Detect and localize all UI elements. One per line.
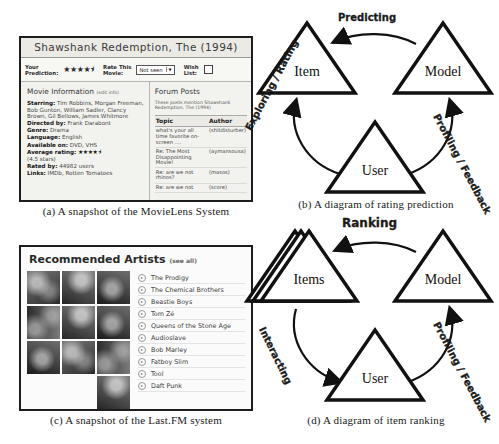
lastfm-body: ▸The Prodigy▸The Chemical Brothers▸Beast… xyxy=(21,271,251,409)
list-item[interactable]: ▸Daft Punk xyxy=(138,380,245,392)
recommended-artists-heading: Recommended Artists (see all) xyxy=(21,247,251,271)
play-icon[interactable]: ▸ xyxy=(138,274,146,282)
artist-name: Fatboy Slim xyxy=(151,358,188,366)
artist-name: The Prodigy xyxy=(151,274,189,282)
table-header-row: Topic Author xyxy=(155,115,247,126)
forum-topic: what's your all time favorite on-screen … xyxy=(155,126,208,147)
node-user: User xyxy=(324,119,426,195)
list-item[interactable]: ▸Beastie Boys xyxy=(138,296,245,308)
links-row: Links: IMDb, Rotten Tomatoes xyxy=(27,170,144,177)
artist-thumbnail[interactable] xyxy=(97,376,130,409)
list-item[interactable]: ▸The Prodigy xyxy=(138,272,245,284)
movielens-body: Movie Information (edit info) Starring: … xyxy=(21,82,251,200)
prediction-stars[interactable]: ★★★★⯨ xyxy=(63,63,94,77)
forum-author: (score) xyxy=(208,183,247,193)
rating-toolbar: Your Prediction: ★★★★⯨ Rate This Movie: … xyxy=(21,58,251,82)
movie-information-section: Movie Information (edit info) Starring: … xyxy=(21,82,150,200)
edge-label-predicting: Predicting xyxy=(338,12,396,23)
caption-c: (c) A snapshot of the Last.FM system xyxy=(19,414,253,426)
play-icon[interactable]: ▸ xyxy=(138,298,146,306)
rating-prediction-diagram: Item Model User Predicting Exploring / R… xyxy=(256,14,496,200)
artist-thumbnail-grid xyxy=(27,271,130,409)
chevron-down-icon: ▼ xyxy=(166,67,172,72)
language-row: Language: English xyxy=(27,134,144,141)
table-row[interactable]: Re: The Most Disappointing Movie!(aymans… xyxy=(155,147,247,168)
artist-thumbnail[interactable] xyxy=(62,306,95,339)
starring-row: Starring: Tim Robbins, Morgan Freeman, B… xyxy=(27,100,144,120)
rate-movie-select[interactable]: Not seen ▼ xyxy=(136,65,174,75)
list-item[interactable]: ▸The Chemical Brothers xyxy=(138,284,245,296)
forum-author: (aymansousa) xyxy=(208,147,247,168)
forum-author: (shitdisturber) xyxy=(208,126,247,147)
edge-label-ranking: Ranking xyxy=(342,216,397,230)
list-item[interactable]: ▸Fatboy Slim xyxy=(138,356,245,368)
average-rating-row: Average rating: ★★★★⯨ xyxy=(27,149,144,156)
table-row[interactable]: Re: are we not(score) xyxy=(155,183,247,193)
edit-info-link[interactable]: (edit info) xyxy=(96,90,118,95)
node-items-label: Items xyxy=(258,272,360,288)
artist-thumbnail[interactable] xyxy=(97,306,130,339)
table-row[interactable]: what's your all time favorite on-screen … xyxy=(155,126,247,147)
node-model-label: Model xyxy=(392,272,494,288)
average-rating-sub: (4.5 stars) xyxy=(27,156,144,163)
artist-thumbnail-empty xyxy=(62,376,95,409)
edge-label-interacting: Interacting xyxy=(257,325,294,386)
forum-posts-table: Topic Author what's your all time favori… xyxy=(155,115,247,193)
lastfm-panel: Recommended Artists (see all) ▸The Prodi… xyxy=(19,245,253,411)
rated-by-row: Rated by: 44982 users xyxy=(27,163,144,170)
your-prediction-label: Your Prediction: xyxy=(25,64,58,76)
list-item[interactable]: ▸Tool xyxy=(138,368,245,380)
caption-a: (a) A snapshot of the MovieLens System xyxy=(19,205,253,217)
node-model: Model xyxy=(392,228,494,304)
play-icon[interactable]: ▸ xyxy=(138,382,146,390)
column-header-topic: Topic xyxy=(155,115,208,126)
node-user-label: User xyxy=(324,371,426,387)
rate-this-movie-label: Rate This Movie: xyxy=(103,64,131,76)
caption-b: (b) A diagram of rating prediction xyxy=(256,198,496,210)
play-icon[interactable]: ▸ xyxy=(138,334,146,342)
node-items: Items xyxy=(258,228,360,304)
column-header-author: Author xyxy=(208,115,247,126)
artist-name: Tool xyxy=(151,370,163,378)
artist-name: Audioslave xyxy=(151,334,186,342)
list-item[interactable]: ▸Queens of the Stone Age xyxy=(138,320,245,332)
edge-label-profiling-feedback: Profiling / Feedback xyxy=(431,320,493,424)
play-icon[interactable]: ▸ xyxy=(138,370,146,378)
forum-posts-note: These posts mention Shawshank Redemption… xyxy=(155,100,247,111)
artist-name: Daft Punk xyxy=(151,382,182,390)
rate-select-value: Not seen xyxy=(139,67,162,73)
artist-name: The Chemical Brothers xyxy=(151,286,224,294)
list-item[interactable]: ▸Audioslave xyxy=(138,332,245,344)
movie-information-heading: Movie Information (edit info) xyxy=(27,87,144,96)
wish-list-checkbox[interactable] xyxy=(204,65,213,74)
play-icon[interactable]: ▸ xyxy=(138,286,146,294)
artist-thumbnail[interactable] xyxy=(62,341,95,374)
external-links[interactable]: IMDb, Rotten Tomatoes xyxy=(48,170,113,176)
node-user: User xyxy=(324,327,426,403)
play-icon[interactable]: ▸ xyxy=(138,358,146,366)
artist-list: ▸The Prodigy▸The Chemical Brothers▸Beast… xyxy=(138,271,245,409)
forum-topic: Re: are we not xyxy=(155,183,208,193)
table-row[interactable]: Re: are we not rhinos?(masos) xyxy=(155,168,247,183)
artist-thumbnail[interactable] xyxy=(27,341,60,374)
directed-row: Directed by: Frank Darabont xyxy=(27,120,144,127)
play-icon[interactable]: ▸ xyxy=(138,310,146,318)
genre-row: Genre: Drama xyxy=(27,127,144,134)
artist-name: Bob Marley xyxy=(151,346,187,354)
artist-thumbnail[interactable] xyxy=(62,271,95,304)
see-all-link[interactable]: (see all) xyxy=(169,257,196,264)
play-icon[interactable]: ▸ xyxy=(138,346,146,354)
artist-name: Queens of the Stone Age xyxy=(151,322,231,330)
artist-thumbnail[interactable] xyxy=(27,271,60,304)
artist-thumbnail[interactable] xyxy=(27,306,60,339)
list-item[interactable]: ▸Bob Marley xyxy=(138,344,245,356)
list-item[interactable]: ▸Tom Zé xyxy=(138,308,245,320)
node-model: Model xyxy=(392,20,494,96)
artist-name: Tom Zé xyxy=(151,310,174,318)
play-icon[interactable]: ▸ xyxy=(138,322,146,330)
movie-title: Shawshank Redemption, The (1994) xyxy=(21,38,251,58)
artist-thumbnail[interactable] xyxy=(97,271,130,304)
artist-name: Beastie Boys xyxy=(151,298,192,306)
caption-d: (d) A diagram of item ranking xyxy=(256,414,496,426)
artist-thumbnail[interactable] xyxy=(97,341,130,374)
